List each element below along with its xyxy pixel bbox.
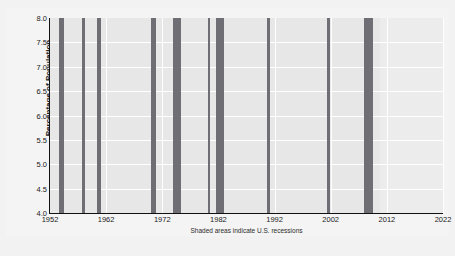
y-axis-tick-label: 6.5 (7, 87, 47, 96)
y-axis-tick-label: 8.0 (7, 14, 47, 23)
y-axis-tick-label: 6.0 (7, 112, 47, 121)
gridline-horizontal (50, 42, 443, 43)
recession-band (327, 18, 331, 213)
gridline-horizontal (50, 116, 443, 117)
recession-band (82, 18, 86, 213)
gridline-horizontal (50, 164, 443, 165)
x-axis-line (49, 213, 443, 214)
gridline-horizontal (50, 140, 443, 141)
chart-figure: Percentage of Population 8.07.57.06.56.0… (6, 8, 449, 236)
x-axis-tick-label: 1992 (255, 215, 295, 224)
gridline-horizontal (50, 91, 443, 92)
x-axis-tick-label: 2022 (423, 215, 455, 224)
gridline-vertical (443, 18, 444, 213)
chart-footnote: Shaded areas indicate U.S. recessions (50, 227, 443, 234)
y-axis-tick-label: 5.5 (7, 136, 47, 145)
recession-band (173, 18, 181, 213)
y-axis-tick-label: 7.5 (7, 38, 47, 47)
clipped-title (0, 0, 455, 6)
x-axis-tick-label: 2012 (367, 215, 407, 224)
plot-area (50, 18, 443, 213)
y-axis-tick-label: 5.0 (7, 160, 47, 169)
gridline-vertical (106, 18, 107, 213)
recession-band (216, 18, 224, 213)
gridline-vertical (387, 18, 388, 213)
gridline-horizontal (50, 67, 443, 68)
recession-band (267, 18, 271, 213)
x-axis-tick-label: 1972 (142, 215, 182, 224)
recession-band (364, 18, 373, 213)
gridline-vertical (162, 18, 163, 213)
x-axis-tick-label: 1952 (30, 215, 70, 224)
x-axis-tick-group: 19521962197219821992200220122022 (50, 215, 443, 227)
y-axis-line (49, 18, 50, 214)
gridline-horizontal (50, 189, 443, 190)
recession-band (151, 18, 157, 213)
gridline-vertical (331, 18, 332, 213)
recession-band (97, 18, 102, 213)
recession-band (208, 18, 211, 213)
y-axis-tick-label: 4.5 (7, 185, 47, 194)
recession-band (59, 18, 64, 213)
x-axis-tick-label: 1962 (86, 215, 126, 224)
y-axis-tick-group: 8.07.57.06.56.05.55.04.54.0 (6, 12, 47, 212)
x-axis-tick-label: 2002 (311, 215, 351, 224)
gridline-vertical (275, 18, 276, 213)
x-axis-tick-label: 1982 (198, 215, 238, 224)
y-axis-tick-label: 7.0 (7, 63, 47, 72)
